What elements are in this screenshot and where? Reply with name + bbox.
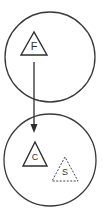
top-circle [5, 12, 95, 102]
triangle-s-label: S [62, 167, 68, 177]
triangle-f-label: F [31, 40, 38, 52]
bottom-circle [4, 114, 96, 206]
triangle-c-label: C [32, 152, 39, 162]
triangle-f: F [21, 32, 47, 55]
diagram-canvas: F C S [0, 0, 102, 218]
triangle-c: C [23, 142, 47, 166]
bottom-circle-node: C S [4, 114, 96, 206]
triangle-s: S [52, 157, 78, 181]
arrow-head-icon [31, 124, 38, 133]
top-circle-node: F [5, 12, 95, 102]
